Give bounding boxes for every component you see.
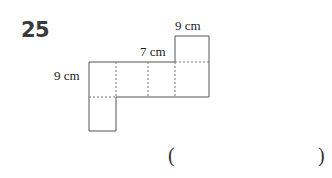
fold-lines — [89, 62, 209, 97]
answer-open-paren: ( — [168, 144, 175, 167]
answer-close-paren: ) — [318, 144, 325, 167]
label-left-height: 9 cm — [54, 68, 80, 83]
label-middle-height: 7 cm — [140, 44, 166, 59]
label-top-tab-width: 9 cm — [175, 18, 201, 33]
answer-blank[interactable] — [180, 146, 315, 168]
